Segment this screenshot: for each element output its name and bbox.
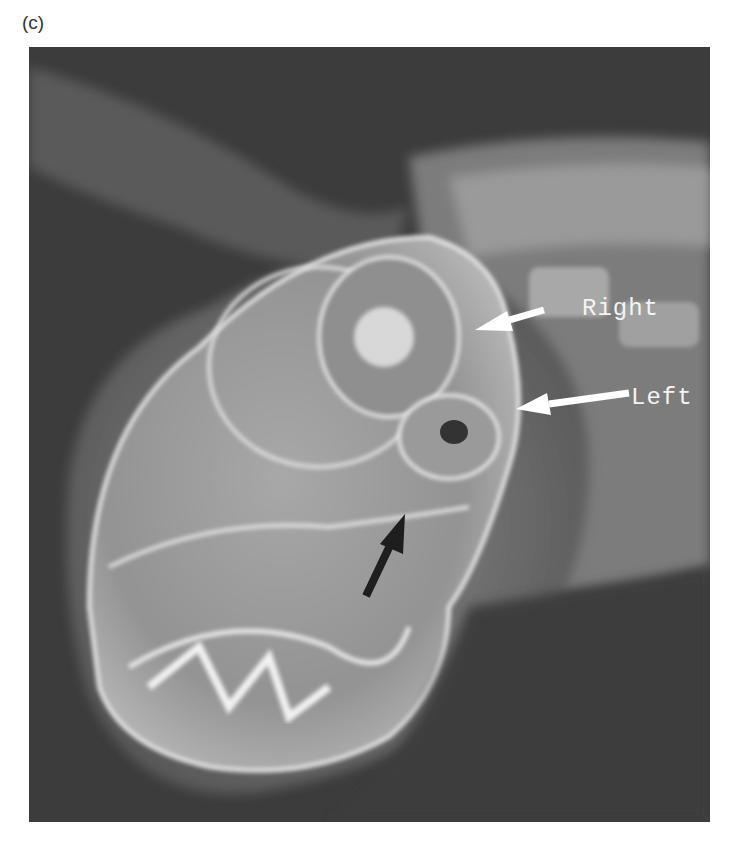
right-label: Right [582, 295, 659, 322]
left-label: Left [631, 384, 693, 411]
panel-label: (c) [22, 12, 44, 34]
radiograph-drawing [29, 47, 710, 822]
radiograph-image: Right Left [29, 47, 710, 822]
